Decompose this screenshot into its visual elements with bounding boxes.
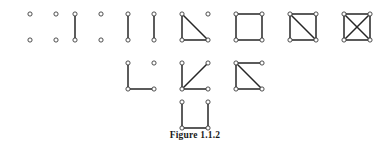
graph-vertex	[180, 100, 184, 104]
graph-vertex	[234, 87, 238, 91]
graph-vertex	[206, 61, 210, 65]
graph-vertex	[180, 61, 184, 65]
graph-vertex	[99, 12, 103, 16]
graph-edge	[290, 14, 316, 40]
one-edge-graph	[73, 12, 103, 42]
star-graph-claw	[180, 61, 210, 91]
path-three-plus-isolated-vertex	[126, 61, 156, 91]
path-four-graph	[180, 100, 210, 130]
graph-vertex	[234, 61, 238, 65]
graph-vertex	[99, 38, 103, 42]
graph-vertex	[152, 87, 156, 91]
graph-vertex	[152, 38, 156, 42]
graph-edge	[182, 14, 208, 40]
graph-vertex	[28, 38, 32, 42]
graph-vertex	[126, 61, 130, 65]
graph-vertex	[314, 38, 318, 42]
graph-vertex	[288, 12, 292, 16]
graph-vertex	[126, 12, 130, 16]
graph-edge	[236, 63, 262, 89]
graph-vertex	[152, 12, 156, 16]
graph-vertex	[180, 87, 184, 91]
graph-vertex	[206, 87, 210, 91]
graph-vertex	[28, 12, 32, 16]
graph-vertex	[54, 38, 58, 42]
graph-vertex	[180, 38, 184, 42]
graph-diagram-canvas	[0, 0, 390, 150]
empty-graph	[28, 12, 58, 42]
graph-vertex	[54, 12, 58, 16]
graph-vertex	[260, 12, 264, 16]
graph-vertex	[234, 12, 238, 16]
graph-vertex	[260, 38, 264, 42]
figure-container: Figure 1.1.2	[0, 0, 390, 150]
diamond-graph	[288, 12, 318, 42]
graph-vertex	[368, 38, 372, 42]
graph-vertex	[126, 87, 130, 91]
graph-vertex	[206, 100, 210, 104]
graph-vertex	[206, 12, 210, 16]
graph-vertex	[152, 61, 156, 65]
graph-vertex	[180, 12, 184, 16]
graph-vertex	[368, 12, 372, 16]
graph-vertex	[260, 61, 264, 65]
graph-vertex	[342, 12, 346, 16]
cycle-four-graph	[234, 12, 264, 42]
paw-graph	[234, 61, 264, 91]
figure-caption: Figure 1.1.2	[0, 130, 390, 140]
graph-vertex	[288, 38, 292, 42]
graph-vertex	[73, 12, 77, 16]
triangle-plus-isolated-vertex	[180, 12, 210, 42]
graph-vertex	[206, 38, 210, 42]
graph-vertex	[73, 38, 77, 42]
graph-vertex	[314, 12, 318, 16]
graph-vertex	[126, 38, 130, 42]
graph-vertex	[342, 38, 346, 42]
complete-graph-k4	[342, 12, 372, 42]
graph-edge	[182, 63, 208, 89]
graph-vertex	[260, 87, 264, 91]
graph-vertex	[234, 38, 238, 42]
perfect-matching-graph	[126, 12, 156, 42]
